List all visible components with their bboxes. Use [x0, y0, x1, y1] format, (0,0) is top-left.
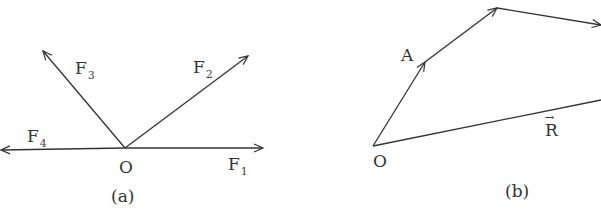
oa-vector: [373, 62, 425, 146]
caption-a: (a): [111, 188, 134, 205]
f3-label: F3: [75, 60, 95, 77]
origin-label-a: O: [119, 159, 133, 176]
vector-diagram: F3 F2 F4 F1 O (a) A O → R (b): [0, 0, 601, 217]
caption-b: (b): [505, 183, 529, 200]
f2-label: F2: [193, 59, 213, 76]
f2-vector: [125, 56, 248, 148]
third-vector: [497, 8, 601, 25]
vector-arrow-icon: →: [545, 112, 554, 123]
point-a-label: A: [401, 47, 413, 64]
origin-label-b: O: [373, 153, 387, 170]
resultant-vector: [373, 100, 601, 146]
f1-label: F1: [228, 156, 248, 173]
f4-vector: [1, 148, 125, 150]
resultant-label: → R: [545, 122, 558, 139]
f4-label: F4: [27, 128, 47, 145]
second-vector: [425, 8, 497, 62]
